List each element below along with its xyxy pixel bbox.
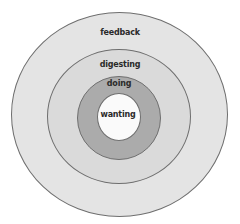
concentric-circles-diagram: feedback digesting doing wanting: [0, 0, 240, 224]
label-feedback: feedback: [100, 28, 140, 37]
label-wanting: wanting: [100, 110, 135, 119]
label-digesting: digesting: [100, 60, 141, 69]
label-doing: doing: [107, 79, 131, 88]
